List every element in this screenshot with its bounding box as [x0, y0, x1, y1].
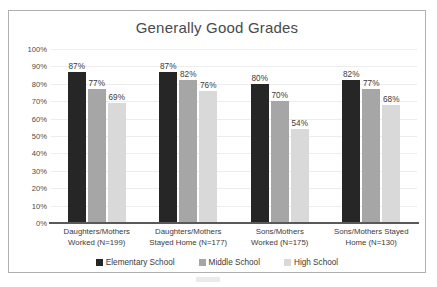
bar-group: 80%70%54% [234, 49, 326, 223]
bar[interactable] [362, 89, 380, 223]
bar-value-label: 82% [171, 70, 205, 79]
category-label-line: Worked (N=175) [234, 237, 326, 248]
plot-area: 87%77%69%87%82%76%80%70%54%82%77%68% [51, 49, 417, 223]
bar-group: 82%77%68% [326, 49, 418, 223]
x-axis-category-label: Daughters/MothersWorked (N=199) [51, 226, 143, 248]
bar-value-label: 76% [191, 81, 225, 90]
page-scan-artifact [196, 277, 220, 282]
bar-value-label: 87% [151, 62, 185, 71]
x-axis-category-labels: Daughters/MothersWorked (N=199)Daughters… [51, 226, 417, 258]
bar-value-label: 54% [283, 119, 317, 128]
category-label-line: Sons/Mothers Stayed [326, 226, 418, 237]
y-axis-tick-label: 50% [13, 132, 47, 141]
bar-value-label: 68% [374, 95, 408, 104]
y-axis-tick-label: 80% [13, 79, 47, 88]
y-axis-tick-label: 10% [13, 201, 47, 210]
x-axis-category-label: Sons/Mothers StayedHome (N=130) [326, 226, 418, 248]
legend-label: Elementary School [106, 258, 175, 267]
bar[interactable] [88, 89, 106, 223]
category-label-line: Worked (N=199) [51, 237, 143, 248]
legend-label: High School [294, 258, 338, 267]
chart-title: Generally Good Grades [9, 19, 425, 36]
y-axis-tick-label: 90% [13, 62, 47, 71]
bar[interactable] [382, 105, 400, 223]
legend-item[interactable]: High School [284, 258, 338, 267]
y-axis-tick-label: 40% [13, 149, 47, 158]
category-label-line: Daughters/Mothers [143, 226, 235, 237]
x-axis-line [49, 222, 419, 224]
y-axis-tick-label: 100% [13, 45, 47, 54]
category-label-line: Daughters/Mothers [51, 226, 143, 237]
category-label-line: Home (N=130) [326, 237, 418, 248]
bar-value-label: 82% [334, 70, 368, 79]
bar[interactable] [291, 129, 309, 223]
bar-value-label: 80% [243, 74, 277, 83]
bar-group: 87%77%69% [51, 49, 143, 223]
chart-container: Generally Good Grades 100%90%80%70%60%50… [8, 10, 426, 273]
chart-legend: Elementary SchoolMiddle SchoolHigh Schoo… [9, 258, 425, 267]
y-axis-tick-label: 30% [13, 166, 47, 175]
bar-value-label: 70% [263, 91, 297, 100]
y-axis-tick-label: 60% [13, 114, 47, 123]
legend-swatch-icon [199, 259, 206, 266]
legend-item[interactable]: Elementary School [96, 258, 175, 267]
legend-swatch-icon [96, 259, 103, 266]
bar-value-label: 69% [100, 93, 134, 102]
category-label-line: Stayed Home (N=177) [143, 237, 235, 248]
legend-swatch-icon [284, 259, 291, 266]
category-label-line: Sons/Mothers [234, 226, 326, 237]
bar[interactable] [342, 80, 360, 223]
x-axis-category-label: Sons/MothersWorked (N=175) [234, 226, 326, 248]
y-axis: 100%90%80%70%60%50%40%30%20%10%0% [9, 49, 47, 223]
bar[interactable] [108, 103, 126, 223]
bar-group: 87%82%76% [143, 49, 235, 223]
y-axis-tick-label: 20% [13, 184, 47, 193]
bar-value-label: 77% [354, 79, 388, 88]
bar[interactable] [159, 72, 177, 223]
y-axis-tick-label: 0% [13, 219, 47, 228]
bar-value-label: 77% [80, 79, 114, 88]
bar[interactable] [199, 91, 217, 223]
legend-label: Middle School [209, 258, 260, 267]
bar[interactable] [68, 72, 86, 223]
bar[interactable] [251, 84, 269, 223]
y-axis-tick-label: 70% [13, 97, 47, 106]
x-axis-category-label: Daughters/MothersStayed Home (N=177) [143, 226, 235, 248]
bar[interactable] [179, 80, 197, 223]
bar-value-label: 87% [60, 62, 94, 71]
legend-item[interactable]: Middle School [199, 258, 260, 267]
